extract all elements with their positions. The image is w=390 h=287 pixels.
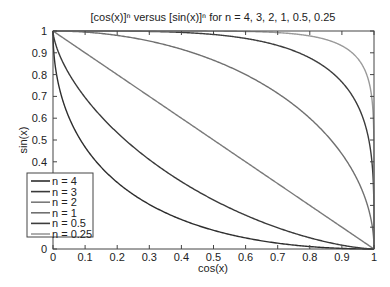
y-tick-label: 1	[41, 25, 47, 37]
x-tick-label: 0.3	[142, 251, 157, 263]
y-tick-label: 0.9	[32, 47, 47, 59]
legend: n = 4n = 3n = 2n = 1n = 0.5n = 0.25	[27, 173, 93, 240]
y-tick-label: 0.8	[32, 69, 47, 81]
x-tick-label: 0.6	[238, 251, 253, 263]
x-tick-label: 0.2	[110, 251, 125, 263]
legend-label: n = 0.25	[52, 228, 92, 240]
x-tick-label: 1	[371, 251, 377, 263]
x-tick-label: 0.8	[302, 251, 317, 263]
y-tick-label: 0.5	[32, 134, 47, 146]
x-tick-label: 0.7	[270, 251, 285, 263]
x-axis-ticks: 00.10.20.30.40.50.60.70.80.91	[50, 31, 377, 263]
y-tick-label: 0	[41, 243, 47, 255]
y-tick-label: 0.4	[32, 156, 47, 168]
x-tick-label: 0.4	[174, 251, 189, 263]
series-line-2	[53, 31, 374, 249]
x-axis-label: cos(x)	[198, 262, 228, 274]
chart-title: [cos(x)]ⁿ versus [sin(x)]ⁿ for n = 4, 3,…	[91, 11, 336, 23]
x-tick-label: 0	[50, 251, 56, 263]
plot-curves	[53, 31, 374, 249]
x-tick-label: 0.9	[334, 251, 349, 263]
chart: [cos(x)]ⁿ versus [sin(x)]ⁿ for n = 4, 3,…	[0, 0, 390, 287]
x-tick-label: 0.1	[77, 251, 92, 263]
y-tick-label: 0.7	[32, 90, 47, 102]
y-axis-label: sin(x)	[17, 127, 29, 154]
y-tick-label: 0.6	[32, 112, 47, 124]
